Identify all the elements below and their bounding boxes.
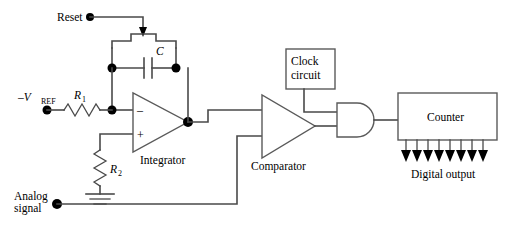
resistor-r2-symbol	[94, 150, 106, 186]
inverting-input-rail	[108, 68, 134, 115]
vref-label-group: –V REF	[17, 91, 56, 106]
counter-label: Counter	[427, 111, 464, 123]
output-arrow-2-icon	[412, 150, 422, 162]
and-gate-body	[337, 103, 374, 137]
capacitor-right-node	[172, 64, 181, 73]
digital-output-bus	[401, 140, 488, 162]
reset-wire	[90, 17, 143, 28]
r2-label-group: R 2	[109, 163, 122, 178]
reset-switch[interactable]	[112, 34, 176, 48]
integrator-label: Integrator	[140, 154, 186, 167]
integrator-plus-label: +	[137, 128, 144, 142]
output-arrow-6-icon	[456, 150, 466, 162]
output-arrow-4-icon	[434, 150, 444, 162]
r2-label: R	[109, 163, 117, 175]
vref-label: –V	[17, 91, 33, 103]
integrator-minus-label: –	[136, 103, 144, 117]
clock-to-and-wire	[304, 89, 337, 112]
integrator-opamp[interactable]: – +	[133, 93, 188, 152]
r2-sublabel: 2	[118, 169, 122, 178]
reset-label: Reset	[57, 11, 83, 23]
comparator-triangle	[262, 95, 315, 158]
feedback-capacitor-branch: C	[108, 45, 181, 78]
output-arrow-8-icon	[478, 150, 488, 162]
and-gate[interactable]	[337, 103, 398, 137]
clock-circuit-block[interactable]: Clock circuit	[286, 49, 337, 112]
output-arrow-7-icon	[467, 150, 477, 162]
analog-label-line2: signal	[14, 202, 41, 215]
vref-sublabel: REF	[41, 97, 56, 106]
integrator-triangle	[133, 93, 188, 152]
reset-arrow-icon	[139, 27, 147, 37]
clock-label-line2: circuit	[291, 69, 321, 81]
counter-block[interactable]: Counter	[398, 93, 497, 140]
digital-output-label: Digital output	[411, 168, 476, 181]
r1-label-group: R 1	[73, 89, 86, 104]
resistor-r1-symbol	[64, 104, 100, 116]
r1-sublabel: 1	[82, 95, 86, 104]
comparator-label: Comparator	[251, 160, 306, 173]
output-arrow-5-icon	[445, 150, 455, 162]
circuit-svg: C – +	[0, 0, 511, 232]
plus-input-wire	[100, 134, 133, 150]
clock-label-line1: Clock	[291, 55, 319, 67]
integrator-to-comparator-wire	[188, 110, 262, 122]
reset-switch-outline	[112, 34, 176, 48]
r1-label: R	[73, 89, 81, 101]
comparator[interactable]	[262, 95, 315, 158]
output-arrow-3-icon	[423, 150, 433, 162]
capacitor-label: C	[156, 45, 164, 57]
output-arrow-1-icon	[401, 150, 411, 162]
circuit-diagram: C – +	[0, 0, 511, 232]
integrator-output-net	[183, 68, 262, 127]
